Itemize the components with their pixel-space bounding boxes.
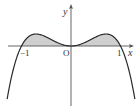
x-axis-label: x — [127, 47, 133, 58]
tick-label-one: 1 — [117, 48, 122, 58]
y-axis-label: y — [62, 6, 68, 17]
tick-label-neg-one: −1 — [20, 48, 30, 58]
function-graph: y x O −1 1 — [0, 0, 139, 109]
origin-label: O — [63, 48, 70, 58]
